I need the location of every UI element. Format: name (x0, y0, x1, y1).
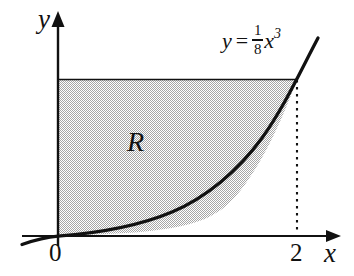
x-tick-label-2: 2 (290, 240, 303, 265)
shaded-region-R (59, 80, 298, 236)
fraction-denominator: 8 (253, 42, 263, 57)
graph-canvas (0, 0, 354, 276)
fraction-numerator: 1 (253, 23, 263, 38)
equation-lhs: y (222, 30, 232, 52)
equation-relation: = (236, 30, 248, 52)
equation-fraction: 1 8 (252, 23, 263, 57)
x-axis-label: x (324, 240, 336, 267)
origin-tick-label: 0 (49, 240, 62, 265)
equation-variable: x (264, 30, 274, 52)
equation-exponent: 3 (274, 27, 281, 41)
y-axis-arrowhead (52, 11, 65, 27)
curve-equation-label: y = 1 8 x 3 (222, 24, 281, 58)
figure-container: y x 0 2 R y = 1 8 x 3 (0, 0, 354, 276)
region-label-R: R (127, 128, 144, 156)
y-axis-label: y (38, 6, 50, 33)
